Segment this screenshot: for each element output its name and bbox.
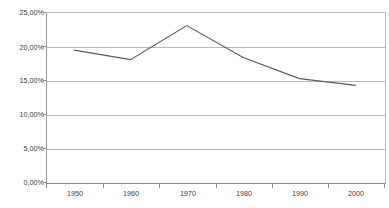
- x-axis-tick-mark: [384, 183, 385, 188]
- x-axis-tick-label: 2000: [336, 189, 376, 198]
- x-axis-tick-label: 1960: [111, 189, 151, 198]
- x-axis-tick-label: 1980: [224, 189, 264, 198]
- series-line: [0, 0, 389, 208]
- x-axis-tick-label: 1950: [55, 189, 95, 198]
- x-axis-tick-mark: [103, 183, 104, 188]
- x-axis-tick-label: 1970: [168, 189, 208, 198]
- x-axis-tick-mark: [216, 183, 217, 188]
- x-axis-tick-label: 1990: [280, 189, 320, 198]
- x-axis-tick-mark: [328, 183, 329, 188]
- x-axis-tick-mark: [159, 183, 160, 188]
- line-chart: 25,00% 20,00% 15,00% 10,00% 5,00% 0,00% …: [0, 0, 389, 208]
- x-axis-tick-mark: [272, 183, 273, 188]
- x-axis-tick-mark: [46, 183, 47, 188]
- series-polyline: [74, 26, 356, 86]
